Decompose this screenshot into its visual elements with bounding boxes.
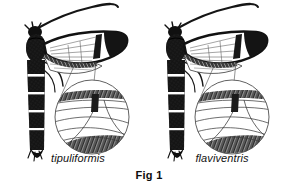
- figure-illustration: tipuliformis flaviventris Fig 1: [0, 0, 298, 187]
- specimen-label-tipuliformis: tipuliformis: [0, 152, 156, 164]
- figure-caption: Fig 1: [0, 169, 298, 181]
- specimen-label-flaviventris: flaviventris: [146, 152, 298, 164]
